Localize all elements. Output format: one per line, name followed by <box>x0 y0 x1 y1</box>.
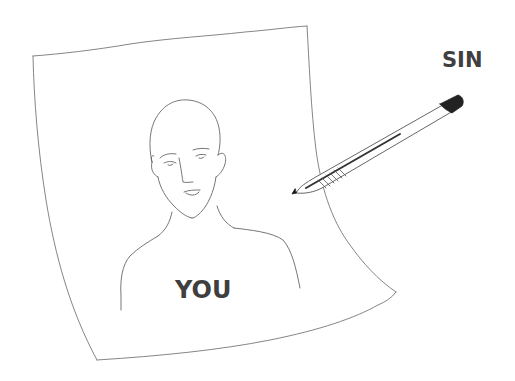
sketch-drawing <box>0 0 515 381</box>
paper-sheet <box>33 26 396 360</box>
pen-drawing <box>292 95 463 194</box>
illustration-scene: SIN YOU <box>0 0 515 381</box>
portrait-label: YOU <box>175 278 231 302</box>
pen-label: SIN <box>442 50 483 71</box>
